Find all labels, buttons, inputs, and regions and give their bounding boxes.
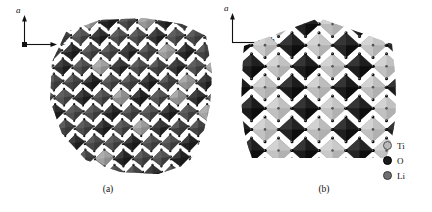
figure-container: a c (a) a b (b) Ti O — [0, 0, 432, 212]
legend-label-ti: Ti — [397, 141, 405, 151]
legend-label-li: Li — [397, 171, 405, 181]
legend: Ti O Li — [383, 138, 431, 183]
axis-label-vertical-b: a — [224, 4, 229, 13]
crystal-structure-a — [40, 14, 216, 176]
panel-a: a c (a) — [0, 0, 216, 212]
legend-item-ti: Ti — [383, 138, 431, 153]
crystal-structure-b — [234, 14, 396, 174]
circle-marker-icon-li — [383, 171, 392, 180]
circle-marker-icon-ti — [383, 141, 392, 150]
legend-label-o: O — [397, 156, 404, 166]
circle-marker-icon-o — [383, 156, 392, 165]
panel-caption-a: (a) — [0, 184, 216, 194]
legend-item-li: Li — [383, 168, 431, 183]
axis-label-vertical-a: a — [16, 6, 21, 15]
panel-caption-b: (b) — [216, 184, 432, 194]
legend-item-o: O — [383, 153, 431, 168]
